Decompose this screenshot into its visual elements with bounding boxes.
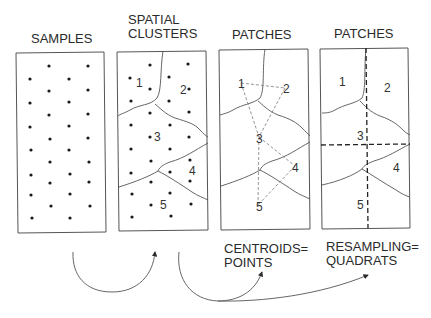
patch-label-5: 5 bbox=[357, 198, 364, 212]
cluster-label-2: 2 bbox=[180, 83, 187, 97]
centroid-label-5: 5 bbox=[256, 200, 263, 214]
centroid-label-3: 3 bbox=[256, 132, 263, 146]
diagram-canvas: 1 2 3 4 5 1 2 3 4 5 1 2 3 4 5 bbox=[0, 0, 431, 318]
quadrat-grid bbox=[321, 48, 410, 228]
centroid-label-4: 4 bbox=[292, 161, 299, 175]
cluster-label-4: 4 bbox=[189, 164, 196, 178]
patch-label-4: 4 bbox=[393, 161, 400, 175]
patch-boundaries bbox=[220, 49, 310, 199]
arrow-clusters-to-quadrats bbox=[218, 275, 368, 301]
samples-panel bbox=[16, 52, 106, 233]
patches-quadrats-panel bbox=[320, 48, 410, 229]
patch-label-3: 3 bbox=[357, 129, 364, 143]
arrow-clusters-to-centroids bbox=[179, 252, 262, 301]
workflow-arrows bbox=[73, 252, 368, 301]
cluster-label-5: 5 bbox=[160, 198, 167, 212]
centroid-label-2: 2 bbox=[283, 82, 290, 96]
patch-label-2: 2 bbox=[384, 81, 391, 95]
patches-centroids-panel bbox=[219, 49, 310, 230]
cluster-label-3: 3 bbox=[154, 130, 161, 144]
centroid-label-1: 1 bbox=[238, 77, 245, 91]
cluster-label-1: 1 bbox=[136, 76, 143, 90]
patch-label-1: 1 bbox=[339, 75, 346, 89]
arrow-samples-to-clusters bbox=[73, 252, 155, 292]
sample-points bbox=[28, 64, 91, 219]
